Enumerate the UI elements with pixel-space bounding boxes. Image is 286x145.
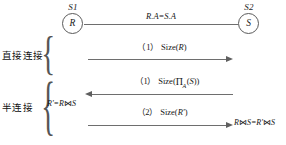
- brace-direct-join: {: [40, 35, 56, 73]
- semi-join-message-diagram: S1 R S2 S R.A=S.A 直接连接 { （1）Size(R) 半连接 …: [0, 0, 286, 145]
- category-label-direct-join: 直接连接: [2, 48, 43, 62]
- message-arrow-3-head: [226, 122, 233, 128]
- message-arrow-2-line: [88, 94, 233, 95]
- semi-join-formula: R'=R⋈S: [47, 99, 76, 108]
- message-label-1: （1）Size(R): [102, 43, 222, 52]
- message-arrow-1-line: [88, 59, 228, 60]
- message-arrow-1-head: [226, 56, 233, 62]
- category-label-semi-join: 半连接: [2, 100, 33, 114]
- node-s: S: [238, 13, 259, 34]
- message-label-2: （1）Size(ΠA(S)): [102, 76, 232, 88]
- node-r-label: R: [70, 19, 76, 29]
- join-result-label: R⋈S=R'⋈S: [234, 118, 275, 127]
- message-label-3: （2）Size(R'): [102, 108, 222, 117]
- message-arrow-3-line: [88, 125, 228, 126]
- site-label-s2: S2: [234, 2, 264, 12]
- connection-edge: [84, 24, 238, 25]
- node-s-label: S: [246, 19, 251, 29]
- message-arrow-2-head: [85, 91, 92, 97]
- site-label-s1: S1: [58, 2, 88, 12]
- connection-edge-label: R.A=S.A: [121, 12, 201, 21]
- node-r: R: [62, 13, 83, 34]
